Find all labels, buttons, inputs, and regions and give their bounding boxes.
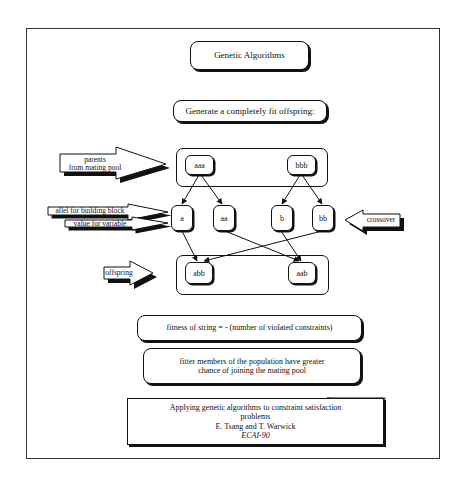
fitness-text: fitness of string = - (number of violate… [167,323,333,332]
reference-box: Applying genetic algorithms to constrain… [127,398,384,445]
node-label: aaa [194,161,205,170]
allel-label: allel for building block [50,207,130,215]
node-label: abb [193,269,205,278]
node-abb: abb [185,262,213,284]
parents-label-line2: from mating pool [62,164,128,172]
node-label: aab [296,269,307,278]
node-label: a [180,214,184,223]
parents-label: parents from mating pool [62,156,128,173]
reference-title-line1: Applying genetic algorithms to constrain… [170,403,342,412]
node-bbb: bbb [287,155,316,175]
fitter-box: fitter members of the population have gr… [143,348,361,384]
reference-title-line2: problems [241,412,271,421]
reference-authors: E. Tsang and T. Warwick [216,422,296,431]
node-label: bbb [296,161,308,170]
fitter-text-line1: fitter members of the population have gr… [180,357,325,366]
node-label: aa [220,214,227,223]
reference-venue: ECAI-90 [241,431,269,440]
fitter-text-line2: chance of joining the mating pool [198,366,306,375]
node-label: bb [319,214,327,223]
node-bb: bb [312,205,334,231]
value-label: value for variable [66,220,134,228]
offspring-label: offspring [104,269,134,277]
crossover-label: crossover [362,216,400,224]
node-aab: aab [288,262,316,284]
node-label: b [280,214,284,223]
node-a: a [171,205,193,231]
node-aa: aa [213,205,235,231]
fitness-box: fitness of string = - (number of violate… [137,315,362,341]
node-aaa: aaa [185,155,214,175]
node-b: b [271,205,293,231]
